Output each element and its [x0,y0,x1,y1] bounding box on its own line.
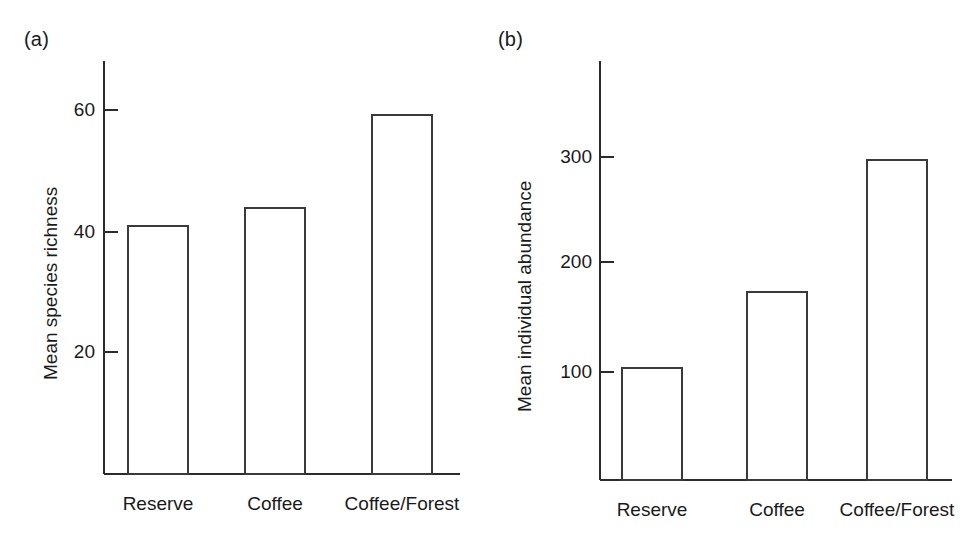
panel-b-category-label-reserve: Reserve [617,499,688,521]
panel-a: (a) Mean species richness 60 40 20 Reser… [0,0,482,533]
panel-a-category-label-coffee: Coffee [247,493,303,515]
panel-b-bar-reserve [622,368,682,480]
panel-a-plot [0,0,482,533]
panel-b-bar-coffee-forest [867,160,927,480]
panel-a-bar-coffee [245,208,305,474]
panel-b-bar-coffee [747,292,807,480]
panel-a-category-label-reserve: Reserve [123,493,194,515]
figure-container: (a) Mean species richness 60 40 20 Reser… [0,0,964,533]
panel-a-bar-reserve [128,226,188,474]
panel-b-plot [482,0,964,533]
panel-b: (b) Mean individual abundance 300 200 10… [482,0,964,533]
panel-a-bar-coffee-forest [372,115,432,474]
panel-a-category-label-coffee-forest: Coffee/Forest [345,493,460,515]
panel-b-category-label-coffee-forest: Coffee/Forest [840,499,955,521]
panel-b-category-label-coffee: Coffee [749,499,805,521]
